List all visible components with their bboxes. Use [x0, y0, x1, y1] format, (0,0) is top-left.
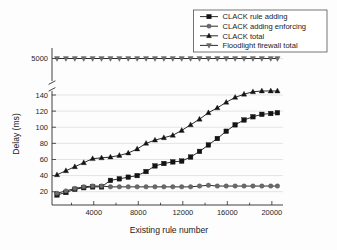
marker-triangle-down	[54, 57, 59, 62]
y-tick-label: 20	[40, 187, 48, 196]
x-axis-title: Existing rule number	[130, 225, 208, 235]
series-4	[54, 57, 280, 62]
marker-square	[162, 161, 167, 166]
marker-circle	[260, 184, 265, 189]
marker-square	[108, 178, 113, 183]
marker-circle	[108, 185, 113, 190]
legend-label: CLACK rule adding	[223, 12, 288, 21]
marker-triangle-down	[224, 57, 229, 62]
gridlines-group	[52, 59, 283, 192]
marker-triangle-down	[72, 57, 77, 62]
marker-triangle-down	[135, 57, 140, 62]
marker-square	[215, 136, 220, 141]
marker-triangle-down	[188, 57, 193, 62]
series-line	[57, 113, 277, 195]
marker-circle	[171, 185, 176, 190]
marker-triangle-down	[241, 57, 246, 62]
marker-square	[251, 114, 256, 119]
marker-circle	[207, 24, 211, 28]
marker-square	[224, 129, 229, 134]
marker-circle	[275, 184, 280, 189]
marker-square	[242, 118, 247, 123]
marker-triangle-down	[179, 57, 184, 62]
series-group	[54, 57, 280, 198]
legend-label: CLACK adding enforcing	[223, 22, 307, 31]
marker-square	[170, 160, 175, 165]
series-3	[54, 88, 280, 177]
marker-circle	[81, 185, 86, 190]
legend-label: CLACK total	[223, 32, 265, 41]
marker-triangle-down	[250, 57, 255, 62]
marker-triangle-down	[99, 57, 104, 62]
marker-triangle-up	[224, 99, 229, 104]
y-axis-title: Delay (ms)	[11, 113, 21, 155]
marker-circle	[117, 185, 122, 190]
marker-triangle-down	[126, 57, 131, 62]
chart-legend: CLACK rule addingCLACK adding enforcingC…	[194, 10, 328, 52]
y-tick-label: 140	[35, 91, 48, 100]
marker-triangle-down	[161, 57, 166, 62]
marker-triangle-down	[108, 57, 113, 62]
marker-square	[260, 112, 265, 117]
x-tick-label: 16000	[217, 208, 238, 217]
marker-triangle-up	[179, 128, 184, 133]
marker-triangle-down	[259, 57, 264, 62]
marker-circle	[224, 184, 229, 189]
x-axis-ticks	[71, 201, 271, 205]
marker-triangle-up	[215, 105, 220, 110]
x-tick-label: 20000	[261, 208, 282, 217]
marker-square	[268, 111, 273, 116]
marker-triangle-up	[188, 122, 193, 127]
y-tick-label: 100	[35, 123, 48, 132]
marker-circle	[197, 184, 202, 189]
plot-frame	[49, 48, 283, 205]
marker-circle	[206, 183, 211, 188]
marker-triangle-up	[135, 146, 140, 151]
marker-triangle-down	[232, 57, 237, 62]
marker-triangle-down	[268, 57, 273, 62]
marker-circle	[251, 184, 256, 189]
marker-square	[197, 149, 202, 154]
marker-triangle-up	[259, 88, 264, 93]
marker-circle	[233, 184, 238, 189]
axis-break-icon	[49, 81, 56, 91]
marker-triangle-up	[206, 110, 211, 115]
marker-triangle-up	[170, 132, 175, 137]
y-tick-label: 120	[35, 107, 48, 116]
marker-triangle-down	[152, 57, 157, 62]
series-1	[55, 110, 280, 197]
y-axis-ticks	[52, 59, 56, 192]
y-tick-label: 60	[40, 155, 48, 164]
series-line	[57, 91, 277, 175]
marker-square	[126, 175, 131, 180]
marker-circle	[99, 184, 104, 189]
x-tick-label: 12000	[172, 208, 193, 217]
marker-square	[117, 177, 122, 182]
marker-circle	[64, 189, 69, 194]
marker-square	[179, 159, 184, 164]
marker-square	[135, 173, 140, 178]
marker-triangle-up	[275, 88, 280, 93]
marker-square	[207, 14, 211, 18]
marker-triangle-up	[197, 116, 202, 121]
y-tick-label: 40	[40, 171, 48, 180]
marker-triangle-down	[63, 57, 68, 62]
x-tick-label: 4000	[85, 208, 102, 217]
marker-triangle-down	[215, 57, 220, 62]
marker-square	[144, 169, 149, 174]
marker-circle	[269, 184, 274, 189]
y-tick-label: 80	[40, 139, 48, 148]
marker-triangle-up	[268, 88, 273, 93]
chart-figure: 40008000120001600020000 2040608010012014…	[0, 0, 337, 250]
marker-triangle-down	[197, 57, 202, 62]
series-2	[55, 183, 280, 196]
marker-square	[233, 123, 238, 128]
marker-circle	[162, 185, 167, 190]
marker-triangle-down	[117, 57, 122, 62]
marker-circle	[153, 185, 158, 190]
marker-circle	[73, 186, 78, 191]
x-tick-label: 8000	[130, 208, 147, 217]
y-axis-tick-labels: 204060801001201405000	[31, 54, 48, 196]
marker-square	[188, 155, 193, 160]
marker-triangle-down	[90, 57, 95, 62]
